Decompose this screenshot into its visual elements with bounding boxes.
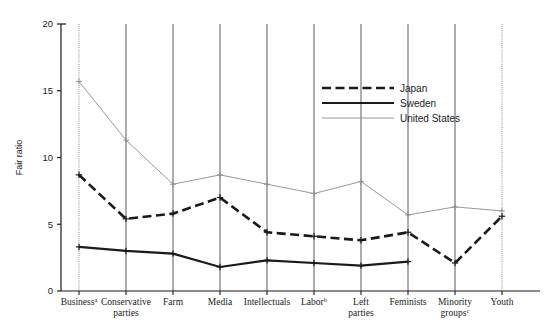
x-tick-label: Left [353,297,369,307]
x-tick-label: Farm [163,297,184,307]
y-tick-label: 10 [42,152,53,163]
x-tick-label-line2: groupsc [441,307,470,319]
legend-label-japan: Japan [400,83,427,94]
chart-container: 05101520Fair ratioBusinessaConservativep… [0,0,548,333]
x-tick-label: Feminists [390,297,427,307]
y-tick-label: 15 [42,85,53,96]
y-tick-label: 0 [48,285,53,296]
x-tick-label: Minority [438,297,472,307]
y-tick-label: 5 [48,219,53,230]
series-line-japan [79,175,502,263]
legend-label-united-states: United States [400,113,460,124]
x-tick-label-line2: parties [348,308,374,318]
x-tick-label-line2: parties [113,308,139,318]
series-line-united-states [79,81,502,215]
x-tick-label: Youth [491,297,514,307]
x-tick-label: Media [208,297,233,307]
series-line-sweden [79,247,408,267]
x-tick-label: Businessa [61,296,98,308]
fair-ratio-line-chart: 05101520Fair ratioBusinessaConservativep… [0,0,548,333]
y-axis-title: Fair ratio [14,140,24,176]
y-tick-label: 20 [42,18,53,29]
x-tick-label: Conservative [101,297,151,307]
x-tick-label: Intellectuals [244,297,291,307]
x-tick-label: Laborb [301,296,327,308]
legend-label-sweden: Sweden [400,98,436,109]
